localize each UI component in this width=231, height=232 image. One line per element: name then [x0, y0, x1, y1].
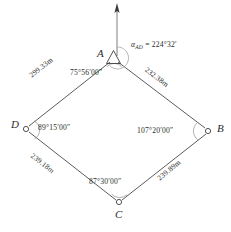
- interior-angle-C: 87°30′00″: [89, 178, 121, 186]
- azimuth-label-AD: αAD = 224°32′: [131, 41, 177, 49]
- north-arrow-icon: [114, 3, 119, 56]
- station-marker-D[interactable]: [23, 126, 28, 131]
- azimuth-arc-A: [110, 47, 129, 69]
- station-label-B: B: [217, 123, 224, 134]
- station-label-A: A: [97, 48, 104, 59]
- interior-angle-A: 75°56′00″: [70, 69, 102, 77]
- interior-angle-D: 89°15′00″: [38, 124, 70, 132]
- angle-arc-C: [112, 194, 128, 198]
- station-marker-A[interactable]: [107, 51, 121, 64]
- interior-angle-B: 107°20′00″: [137, 127, 173, 135]
- station-label-D: D: [11, 119, 19, 130]
- angle-arc-B: [193, 123, 197, 140]
- azimuth-subscript: AD: [135, 44, 143, 50]
- station-label-C: C: [115, 209, 122, 220]
- station-marker-C[interactable]: [116, 199, 121, 204]
- traverse-side-AB: [118, 62, 205, 128]
- station-marker-B[interactable]: [205, 128, 210, 133]
- traverse-drawing-canvas: [0, 0, 231, 232]
- azimuth-value: 224°32′: [152, 40, 177, 49]
- traverse-diagram: A B C D αAD = 224°32′ 299.33m 232.38m 23…: [0, 0, 231, 232]
- azimuth-equals: =: [145, 40, 149, 49]
